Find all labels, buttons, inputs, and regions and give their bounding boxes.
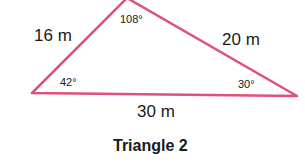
- side-left-label: 16 m: [34, 26, 72, 46]
- figure-caption: Triangle 2: [113, 137, 188, 155]
- side-bottom-label: 30 m: [137, 102, 175, 122]
- side-right-label: 20 m: [222, 30, 260, 50]
- angle-top-label: 108°: [120, 13, 143, 25]
- angle-right-label: 30°: [238, 78, 255, 90]
- angle-left-label: 42°: [60, 76, 77, 88]
